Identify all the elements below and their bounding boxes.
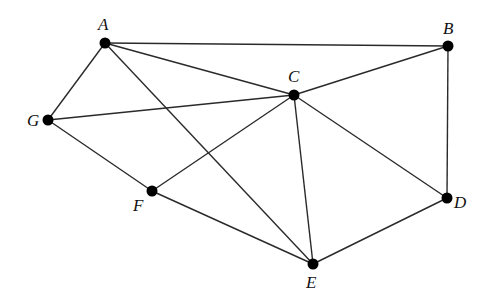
- node-label-a: A: [97, 15, 109, 34]
- edge-g-f: [48, 120, 152, 191]
- edge-a-g: [48, 43, 105, 120]
- node-g: [43, 115, 54, 126]
- node-label-e: E: [305, 273, 317, 292]
- edge-f-e: [152, 191, 313, 264]
- node-c: [289, 90, 300, 101]
- edge-a-c: [105, 43, 294, 95]
- node-a: [100, 38, 111, 49]
- graph-svg: ABCDEFG: [0, 0, 488, 305]
- edge-b-d: [447, 46, 448, 198]
- edge-c-g: [48, 95, 294, 120]
- node-label-c: C: [288, 67, 300, 86]
- labels-group: ABCDEFG: [27, 15, 467, 292]
- edge-c-f: [152, 95, 294, 191]
- node-f: [147, 186, 158, 197]
- edge-a-b: [105, 43, 448, 46]
- node-label-g: G: [27, 111, 39, 130]
- edges-group: [48, 43, 448, 264]
- edge-a-e: [105, 43, 313, 264]
- edge-c-e: [294, 95, 313, 264]
- node-d: [442, 193, 453, 204]
- node-b: [443, 41, 454, 52]
- edge-e-d: [313, 198, 447, 264]
- edge-b-c: [294, 46, 448, 95]
- edge-c-d: [294, 95, 447, 198]
- node-label-d: D: [453, 193, 467, 212]
- node-e: [308, 259, 319, 270]
- node-label-b: B: [443, 19, 454, 38]
- graph-diagram: ABCDEFG: [0, 0, 488, 305]
- node-label-f: F: [132, 196, 144, 215]
